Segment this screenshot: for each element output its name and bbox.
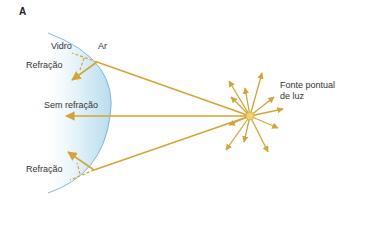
point-source-rays — [226, 73, 283, 152]
point-light-source — [246, 112, 254, 120]
no-refraction-label: Sem refração — [44, 100, 98, 110]
refraction-bottom-label: Refração — [26, 164, 63, 174]
source-label-line1: Fonte pontual — [280, 80, 335, 90]
source-label-line2: de luz — [280, 91, 304, 101]
panel-label: A — [19, 6, 26, 17]
refraction-diagram — [0, 0, 368, 230]
glass-label: Vidro — [51, 41, 72, 51]
refraction-top-label: Refração — [26, 60, 63, 70]
air-label: Ar — [98, 41, 107, 51]
